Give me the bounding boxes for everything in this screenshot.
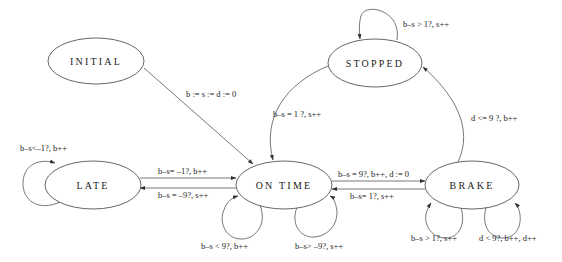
edge-label-on-time-self-right: b–s> –9?, s++	[295, 241, 343, 251]
edge-stopped-to-on-time: b–s = 1 ?, s++	[270, 66, 328, 160]
edge-label-stopped-self: b–s > 1?, s++	[403, 19, 449, 29]
edge-label-on-time-self-left: b–s < 9?, b++	[201, 241, 248, 251]
state-initial-label: INITIAL	[70, 56, 122, 67]
edge-on-time-self-loop-left: b–s < 9?, b++	[201, 196, 262, 251]
edge-initial-to-on-time: b := s := d := 0	[144, 68, 253, 164]
edge-on-time-to-brake: b–s = 9?, b++, d := 0	[332, 169, 425, 181]
edge-label-initial-to-on-time: b := s := d := 0	[186, 89, 236, 99]
edge-brake-self-loop-right: d < 9?, b++, d++	[479, 203, 537, 243]
edge-on-time-to-late: b–s = –9?, s++	[140, 188, 236, 200]
arrow-stopped-self	[359, 9, 397, 40]
edge-label-brake-to-on-time: b–s= 1?, s++	[350, 191, 394, 201]
state-diagram: b := s := d := 0 b–s > 1?, s++ b–s = 1 ?…	[0, 0, 562, 262]
edge-label-brake-self-right: d < 9?, b++, d++	[479, 233, 537, 243]
state-initial: INITIAL	[48, 38, 144, 84]
edge-label-on-time-to-brake: b–s = 9?, b++, d := 0	[338, 169, 409, 179]
arrow-brake-to-stopped	[423, 67, 464, 162]
state-on-time: ON TIME	[236, 161, 332, 209]
state-stopped-label: STOPPED	[346, 58, 405, 69]
edge-label-on-time-to-late: b–s = –9?, s++	[158, 190, 208, 200]
state-late-label: LATE	[76, 180, 109, 191]
edge-label-brake-self-left: b–s > 1?, s++	[411, 233, 457, 243]
edge-late-to-on-time: b–s= –1?, b++	[140, 166, 236, 178]
edge-label-brake-to-stopped: d <= 9 ?, b++	[471, 113, 518, 123]
state-brake-label: BRAKE	[450, 180, 495, 191]
arrow-initial-to-on-time	[144, 68, 253, 164]
edge-label-late-self: b–s<–1?, b++	[20, 143, 67, 153]
state-on-time-label: ON TIME	[256, 180, 313, 191]
edge-label-late-to-on-time: b–s= –1?, b++	[158, 166, 207, 176]
edge-stopped-self-loop: b–s > 1?, s++	[359, 9, 449, 40]
edge-label-stopped-to-on-time: b–s = 1 ?, s++	[273, 109, 321, 119]
edge-brake-to-stopped: d <= 9 ?, b++	[423, 67, 518, 162]
edge-brake-to-on-time: b–s= 1?, s++	[332, 189, 425, 201]
edge-brake-self-loop-left: b–s > 1?, s++	[411, 203, 463, 243]
state-brake: BRAKE	[425, 161, 519, 209]
state-late: LATE	[45, 161, 141, 209]
state-stopped: STOPPED	[328, 39, 422, 87]
